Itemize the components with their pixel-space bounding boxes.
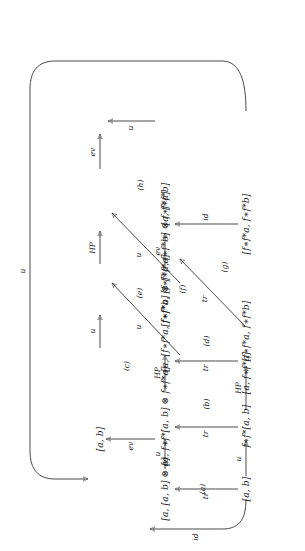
arrow-label-ev-h: ev: [154, 247, 162, 256]
node-ffa-homffaffb-tensor: [f∗f*a, [f∗f*a, f∗f*b] ⊗ f∗f*a]: [160, 191, 169, 327]
region-label-b: (b): [203, 399, 211, 410]
region-label-c: (c): [123, 361, 131, 371]
arrow-label-tr-b: tr: [202, 431, 210, 438]
figure-container: [a, b] f∗f*[a, b] [f∗f*a, f∗f*b] [f∗f*a,…: [0, 0, 305, 551]
arrow-label-id-right: id: [202, 213, 210, 220]
node-ffstar-ab: f∗f*[a, b]: [241, 404, 250, 447]
arrow-label-id-left: id: [192, 533, 200, 540]
diagram-canvas: [a, b] f∗f*[a, b] [f∗f*a, f∗f*b] [f∗f*a,…: [0, 0, 305, 551]
arrow-label-u-diag-c: u: [135, 325, 143, 330]
node-hom-ffa-ffb-right: [f∗f*a, f∗f*b]: [241, 193, 250, 254]
diagram-arrows: [0, 0, 305, 551]
arrow-label-u-bottom-left: u: [235, 457, 243, 462]
arrow-label-hp-bottom: HP: [235, 382, 243, 394]
arrow-label-hp-e: HP: [154, 367, 162, 379]
region-label-h: (h): [137, 180, 145, 191]
arrow-label-u-diag-e: u: [135, 253, 143, 258]
arrow-label-tr-d: tr: [202, 365, 210, 372]
region-label-a: (a): [199, 484, 207, 494]
arrow-label-hp-top: HP: [89, 242, 97, 254]
arrow-label-u-h: u: [127, 126, 135, 131]
arrow-label-u-a: u: [154, 452, 162, 457]
arrow-label-ev-left: ev: [127, 442, 135, 451]
region-label-d: (d): [203, 336, 211, 347]
arrow-label-tr-diag-g: tr: [201, 296, 209, 303]
node-a-ab-tensor-a: [a, [a, b] ⊗ a]: [160, 457, 169, 520]
region-label-f: (f): [179, 285, 187, 294]
arrow-label-ev-top: ev: [89, 148, 97, 157]
node-a-b-top: [a, b]: [95, 427, 104, 452]
node-a-b-bottom: [a, b]: [241, 477, 250, 502]
arrow-label-u-top-mid: u: [89, 329, 97, 334]
region-label-g: (g): [221, 262, 229, 273]
arrow-label-u-top-curve: u: [19, 269, 27, 274]
region-label-e: (e): [136, 288, 144, 298]
